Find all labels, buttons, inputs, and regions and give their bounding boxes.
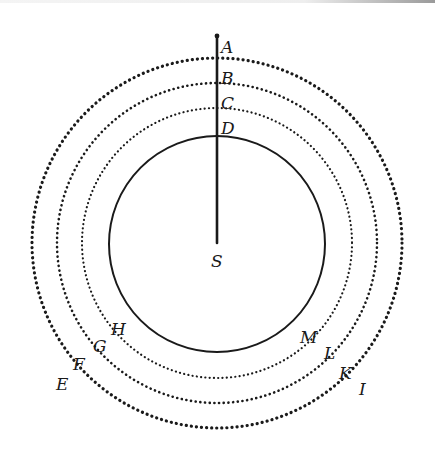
point-label-C: C [221, 95, 234, 112]
point-label-D: D [221, 120, 235, 137]
point-label-S: S [211, 253, 223, 270]
point-label-K: K [339, 365, 352, 382]
point-label-L: L [324, 345, 335, 362]
radius-line-end-dot [215, 34, 220, 39]
concentric-orbit-diagram [0, 0, 435, 471]
point-label-H: H [111, 321, 126, 338]
point-label-F: F [73, 356, 85, 373]
point-label-B: B [221, 70, 234, 87]
point-label-M: M [300, 329, 317, 346]
point-label-I: I [359, 381, 366, 398]
point-label-E: E [56, 376, 68, 393]
point-label-A: A [221, 39, 233, 56]
point-label-G: G [93, 338, 107, 355]
